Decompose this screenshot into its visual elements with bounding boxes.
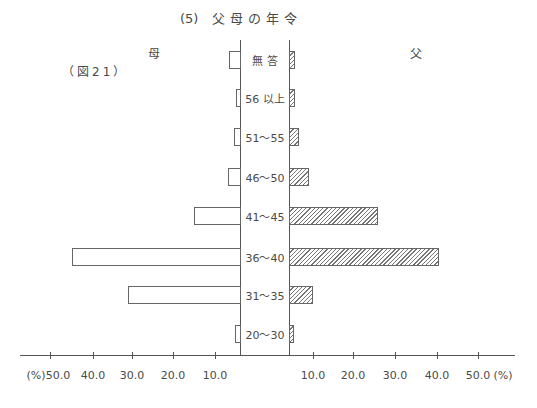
mother-bar bbox=[229, 51, 241, 69]
age-category-label: 51〜55 bbox=[241, 129, 289, 145]
x-axis-tick bbox=[132, 352, 133, 359]
x-axis-tick-label: 40.0 bbox=[425, 369, 450, 382]
mother-bar bbox=[128, 286, 241, 304]
x-axis-tick bbox=[173, 352, 174, 359]
left-baseline bbox=[240, 40, 241, 356]
x-axis-tick bbox=[437, 352, 438, 359]
father-bar bbox=[289, 168, 309, 186]
age-category-label: 36〜40 bbox=[241, 249, 289, 265]
age-category-label: 41〜45 bbox=[241, 208, 289, 224]
x-axis-tick-label: 30.0 bbox=[383, 369, 408, 382]
mother-bar bbox=[234, 128, 241, 146]
father-bar bbox=[289, 51, 295, 69]
mother-bar bbox=[72, 248, 241, 266]
age-category-label: 31〜35 bbox=[241, 287, 289, 303]
x-axis-tick bbox=[353, 352, 354, 359]
x-axis-tick bbox=[215, 352, 216, 359]
father-bar bbox=[289, 325, 294, 343]
mother-bar bbox=[228, 168, 241, 186]
mother-side-label: 母 bbox=[148, 44, 160, 61]
chart-title: (5)父母の年令 bbox=[180, 8, 302, 27]
x-axis-tick bbox=[478, 352, 479, 359]
chart-title-number: (5) bbox=[180, 11, 198, 26]
mother-bar bbox=[194, 207, 241, 225]
x-axis-tick-label: 40.0 bbox=[81, 369, 106, 382]
age-category-label: 56 以上 bbox=[241, 90, 289, 106]
age-category-label: 46〜50 bbox=[241, 169, 289, 185]
father-bar bbox=[289, 286, 313, 304]
x-axis-tick-label: 10.0 bbox=[203, 369, 228, 382]
father-bar bbox=[289, 248, 439, 266]
x-axis-tick-label: 50.0 bbox=[46, 369, 71, 382]
x-axis-tick bbox=[395, 352, 396, 359]
father-bar bbox=[289, 128, 299, 146]
x-axis-tick-label: 50.0 bbox=[466, 369, 491, 382]
x-axis-tick bbox=[50, 352, 51, 359]
father-side-label: 父 bbox=[410, 44, 422, 61]
x-axis-tick-label: 20.0 bbox=[341, 369, 366, 382]
age-category-label: 無 答 bbox=[241, 52, 289, 68]
x-axis-tick bbox=[313, 352, 314, 359]
x-axis-tick bbox=[93, 352, 94, 359]
x-axis-tick-label: 20.0 bbox=[161, 369, 186, 382]
father-bar bbox=[289, 89, 295, 107]
chart-title-text: 父母の年令 bbox=[212, 11, 302, 26]
x-axis-line bbox=[20, 355, 515, 356]
x-axis-tick-label: 30.0 bbox=[120, 369, 145, 382]
age-category-label: 20〜30 bbox=[241, 326, 289, 342]
right-baseline bbox=[289, 40, 290, 356]
left-axis-unit: (%) bbox=[26, 369, 45, 382]
father-bar bbox=[289, 207, 378, 225]
right-axis-unit: (%) bbox=[493, 369, 512, 382]
figure-label: （図21） bbox=[62, 62, 128, 79]
x-axis-tick-label: 10.0 bbox=[301, 369, 326, 382]
